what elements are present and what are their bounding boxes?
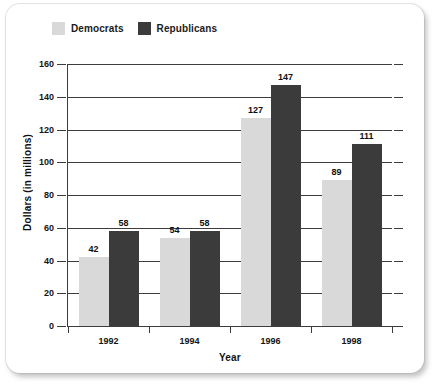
y-tick-label: 60: [44, 223, 54, 233]
bar-value-label: 42: [88, 244, 98, 254]
x-tick-label-1996: 1996: [260, 336, 280, 346]
bar-democrats-1992[interactable]: 42: [79, 64, 109, 326]
bar-group-1996: 127147: [230, 64, 311, 326]
y-tick-mark-right: [394, 64, 403, 65]
bar-value-label: 89: [331, 167, 341, 177]
y-tick-label: 0: [49, 321, 54, 331]
x-tick-mark: [311, 326, 312, 333]
y-tick-label: 80: [44, 190, 54, 200]
x-tick-label-1994: 1994: [179, 336, 199, 346]
bar-value-label: 111: [359, 131, 373, 141]
bar-rect: [241, 118, 271, 326]
y-tick-mark-right: [394, 326, 403, 327]
bar-rect: [190, 231, 220, 326]
y-tick-label: 140: [39, 92, 54, 102]
x-tick-mark: [68, 326, 69, 333]
legend-swatch-republicans: [138, 22, 151, 35]
y-tick-mark: [57, 326, 66, 327]
legend-swatch-democrats: [52, 22, 65, 35]
bar-value-label: 58: [199, 218, 209, 228]
y-tick-mark-right: [394, 130, 403, 131]
y-tick-mark: [57, 97, 66, 98]
x-tick-label-1998: 1998: [341, 336, 361, 346]
legend-label: Democrats: [71, 23, 124, 34]
y-tick-mark: [57, 195, 66, 196]
bar-democrats-1996[interactable]: 127: [241, 64, 271, 326]
y-tick-mark: [57, 293, 66, 294]
y-tick-mark-right: [394, 293, 403, 294]
x-tick-label-1992: 1992: [98, 336, 118, 346]
y-tick-label: 120: [39, 125, 54, 135]
bar-rect: [271, 85, 301, 326]
bar-republicans-1992[interactable]: 58: [109, 64, 139, 326]
y-tick-mark-right: [394, 97, 403, 98]
x-tick-mark: [392, 326, 393, 333]
y-tick-mark-right: [394, 195, 403, 196]
bar-rect: [322, 180, 352, 326]
legend-entry-republicans[interactable]: Republicans: [138, 22, 218, 35]
bar-group-1998: 89111: [311, 64, 392, 326]
chart-card: DemocratsRepublicans Dollars (in million…: [6, 4, 424, 373]
bar-republicans-1996[interactable]: 147: [271, 64, 301, 326]
legend-entry-democrats[interactable]: Democrats: [52, 22, 124, 35]
x-axis-title: Year: [68, 352, 392, 363]
y-tick-mark-right: [394, 228, 403, 229]
plot-area: 020406080100120140160 425854581271478911…: [68, 64, 392, 326]
y-tick-mark: [57, 162, 66, 163]
bar-democrats-1994[interactable]: 54: [160, 64, 190, 326]
bar-rect: [109, 231, 139, 326]
bar-value-label: 58: [118, 218, 128, 228]
y-tick-mark: [57, 261, 66, 262]
bar-rect: [352, 144, 382, 326]
y-tick-mark: [57, 228, 66, 229]
bar-series-container: 4258545812714789111: [68, 64, 392, 326]
y-tick-mark-right: [394, 261, 403, 262]
bar-value-label: 147: [278, 72, 293, 82]
bar-rect: [79, 257, 109, 326]
bar-value-label: 54: [169, 225, 179, 235]
x-tick-mark: [149, 326, 150, 333]
y-tick-label: 20: [44, 288, 54, 298]
bar-republicans-1998[interactable]: 111: [352, 64, 382, 326]
bar-democrats-1998[interactable]: 89: [322, 64, 352, 326]
y-tick-mark: [57, 130, 66, 131]
y-tick-label: 160: [39, 59, 54, 69]
bar-group-1994: 5458: [149, 64, 230, 326]
bar-group-1992: 4258: [68, 64, 149, 326]
bar-rect: [160, 238, 190, 326]
x-tick-mark: [230, 326, 231, 333]
y-axis-title: Dollars (in millions): [22, 134, 36, 231]
y-tick-mark-right: [394, 162, 403, 163]
chart-legend: DemocratsRepublicans: [52, 22, 217, 35]
y-tick-mark: [57, 64, 66, 65]
legend-label: Republicans: [157, 23, 218, 34]
y-tick-label: 40: [44, 256, 54, 266]
bar-republicans-1994[interactable]: 58: [190, 64, 220, 326]
bar-value-label: 127: [248, 105, 263, 115]
y-tick-label: 100: [39, 157, 54, 167]
